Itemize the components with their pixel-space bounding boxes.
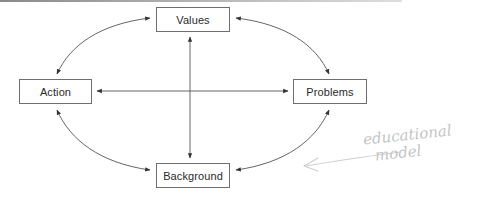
node-problems-label: Problems [306,86,353,98]
arrow-action-background [57,110,150,170]
node-values-label: Values [176,14,209,26]
node-background: Background [156,163,230,188]
arrow-problems-background [236,110,329,170]
node-action-label: Action [40,86,71,98]
node-problems: Problems [293,79,367,104]
node-background-label: Background [163,170,223,182]
node-values: Values [156,7,230,32]
arrow-values-problems [236,18,329,74]
node-action: Action [19,79,92,104]
arrow-values-action [57,18,150,74]
